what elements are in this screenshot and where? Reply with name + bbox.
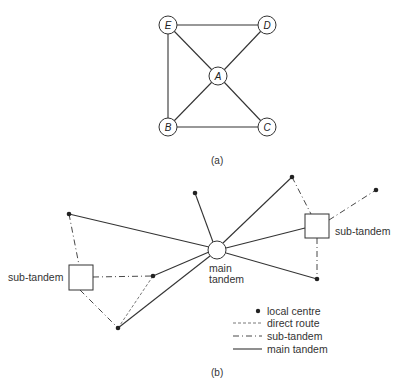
svg-text:D: D bbox=[263, 20, 270, 31]
left-sub-tandem-label: sub-tandem bbox=[8, 271, 63, 283]
local-centre-dot bbox=[193, 191, 198, 196]
main-tandem-label-line2: tandem bbox=[209, 273, 244, 285]
legend-local-centre-icon bbox=[256, 309, 260, 313]
local-centre-dot bbox=[151, 274, 156, 279]
svg-text:B: B bbox=[165, 122, 172, 133]
local-centre-dot bbox=[116, 326, 121, 331]
local-centre-dot bbox=[67, 212, 72, 217]
node-A: A bbox=[209, 67, 227, 85]
svg-text:A: A bbox=[214, 71, 222, 82]
left-sub-tandem-node bbox=[69, 265, 93, 290]
legend-main-tandem-label: main tandem bbox=[267, 343, 328, 355]
figure-b-caption: (b) bbox=[211, 367, 223, 378]
figure-a-caption: (a) bbox=[211, 155, 223, 166]
direct-routes bbox=[118, 276, 153, 328]
legend-local-centre-label: local centre bbox=[267, 305, 321, 317]
node-B: B bbox=[159, 118, 177, 136]
right-sub-tandem-node bbox=[305, 214, 329, 238]
right-sub-tandem-label: sub-tandem bbox=[335, 225, 390, 237]
node-D: D bbox=[258, 16, 276, 34]
diagram-canvas: E D A B C bbox=[0, 0, 397, 386]
legend-direct-route-label: direct route bbox=[267, 317, 320, 329]
node-C: C bbox=[258, 118, 276, 136]
local-centre-dot bbox=[374, 188, 379, 193]
local-centre-dot bbox=[315, 277, 320, 282]
legend-sub-tandem-label: sub-tandem bbox=[267, 330, 322, 342]
svg-text:E: E bbox=[165, 20, 172, 31]
svg-text:C: C bbox=[263, 122, 271, 133]
local-centre-dot bbox=[290, 175, 295, 180]
legend-symbols bbox=[233, 309, 262, 349]
main-tandem-node bbox=[208, 241, 226, 259]
node-E: E bbox=[159, 16, 177, 34]
